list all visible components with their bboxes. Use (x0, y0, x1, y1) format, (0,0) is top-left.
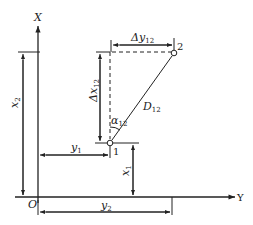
label-x2: x2 (8, 97, 22, 108)
label-y2: y2 (100, 199, 112, 213)
label-delta-x12: Δx12 (87, 79, 101, 103)
axis-label-y: Y (236, 192, 244, 203)
angle-alpha12: α12 (110, 114, 127, 130)
label-delta-y12: Δy12 (130, 31, 154, 45)
label-alpha12: α12 (111, 114, 127, 128)
origin-label: O (28, 198, 37, 211)
label-y1: y1 (70, 141, 82, 155)
dimension-delta-x12: Δx12 (87, 52, 110, 141)
axis-label-x: X (33, 11, 43, 24)
point-2-label: 2 (177, 41, 183, 52)
point-2: 2 (171, 41, 183, 56)
label-d12: D12 (142, 100, 161, 114)
point-1-label: 1 (113, 146, 119, 157)
dimension-y2: y2 (38, 197, 172, 215)
dimension-x2: x2 (8, 52, 40, 195)
label-x1: x1 (119, 165, 133, 176)
horizontal-axis: Y (15, 192, 244, 203)
vertical-axis: X (33, 11, 43, 203)
coordinate-diagram: X Y O x2 Δx12 Δy12 (0, 0, 253, 225)
dimension-x1: x1 (119, 145, 133, 195)
dimension-delta-y12: Δy12 (111, 31, 174, 52)
